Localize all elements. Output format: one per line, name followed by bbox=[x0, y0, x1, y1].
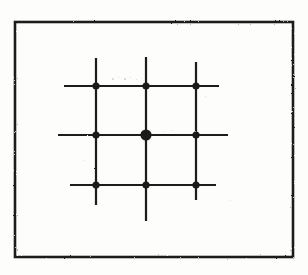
lattice-point-top-right bbox=[192, 82, 199, 89]
lattice-point-top-center bbox=[142, 82, 149, 89]
lattice-point-top-left bbox=[92, 82, 99, 89]
lattice-point-bottom-center bbox=[142, 181, 149, 188]
figure-canvas: Square lattice point grid Scanned line d… bbox=[0, 0, 308, 275]
lattice-point-bottom-right bbox=[192, 181, 199, 188]
lattice-point-middle-right bbox=[192, 131, 199, 138]
lattice-point-bottom-left bbox=[92, 181, 99, 188]
lattice-figure bbox=[0, 0, 308, 275]
lattice-point-middle-left bbox=[92, 131, 99, 138]
figure-border bbox=[15, 22, 293, 257]
lattice-point-center bbox=[140, 129, 151, 140]
